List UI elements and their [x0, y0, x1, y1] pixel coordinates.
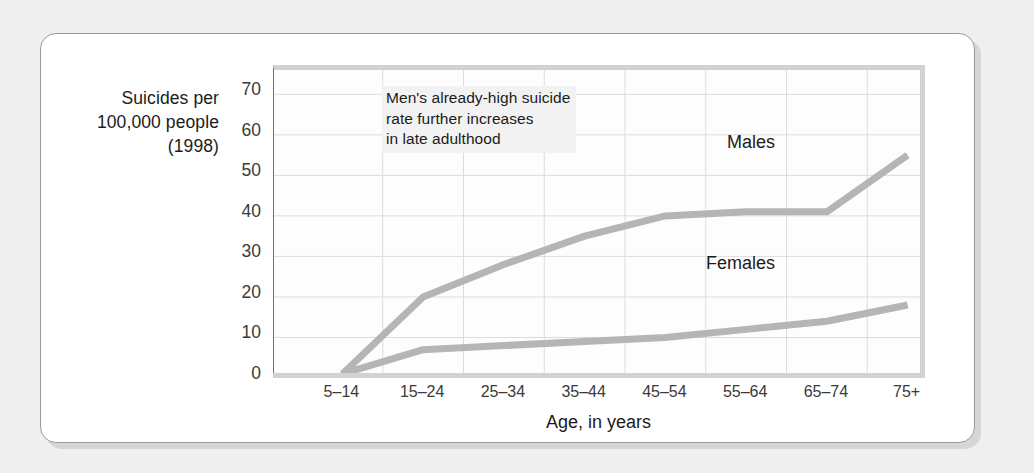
y-axis-tick-label: 40 [242, 200, 261, 221]
y-axis-title: Suicides per 100,000 people (1998) [59, 86, 219, 158]
x-axis-tick-label: 75+ [893, 383, 920, 401]
x-axis-baseline [273, 373, 924, 378]
x-axis-tick-labels: 5–1415–2425–3435–4445–5455–6465–7475+ [273, 383, 924, 409]
plot-inner [274, 70, 920, 378]
series-line-females [342, 305, 907, 374]
y-axis-tick-label: 0 [251, 363, 261, 384]
x-axis-tick-label: 35–44 [561, 383, 606, 401]
series-label-males: Males [727, 132, 775, 153]
y-axis-tick-label: 10 [242, 322, 261, 343]
series-lines [274, 70, 920, 378]
x-axis-tick-label: 55–64 [723, 383, 768, 401]
x-axis-tick-label: 25–34 [481, 383, 526, 401]
chart-annotation: Men's already-high suicide rate further … [382, 86, 576, 153]
plot-area: Men's already-high suicide rate further … [273, 65, 925, 378]
line-chart: Suicides per 100,000 people (1998) 01020… [41, 34, 974, 442]
x-axis-tick-label: 5–14 [324, 383, 360, 401]
y-axis-tick-label: 50 [242, 160, 261, 181]
x-axis-tick-label: 15–24 [400, 383, 445, 401]
y-axis-tick-label: 20 [242, 281, 261, 302]
y-axis-tick-labels: 010203040506070 [219, 65, 267, 373]
x-axis-tick-label: 45–54 [642, 383, 687, 401]
y-axis-tick-label: 30 [242, 241, 261, 262]
y-axis-tick-label: 70 [242, 79, 261, 100]
x-axis-title: Age, in years [273, 412, 924, 433]
y-axis-tick-label: 60 [242, 119, 261, 140]
figure-card: Suicides per 100,000 people (1998) 01020… [40, 33, 975, 443]
series-label-females: Females [706, 253, 775, 274]
x-axis-tick-label: 65–74 [804, 383, 849, 401]
